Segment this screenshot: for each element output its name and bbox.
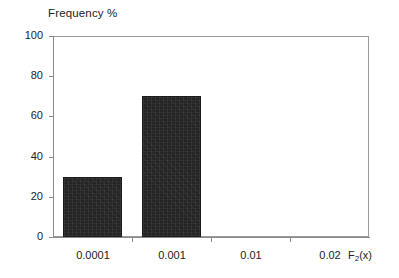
y-tick-mark [49, 237, 54, 238]
y-axis-line [53, 36, 54, 238]
x-axis-title: F2(x) [348, 250, 372, 262]
x-tick-mark [132, 237, 133, 242]
y-tick-label: 100 [3, 30, 43, 41]
y-tick-mark [49, 116, 54, 117]
y-tick-label: 20 [3, 191, 43, 202]
y-tick-label: 0 [3, 231, 43, 242]
bar [142, 96, 201, 237]
x-axis-title-tail: (x) [359, 249, 372, 261]
x-tick-label: 0.01 [211, 250, 291, 261]
y-tick-mark [49, 76, 54, 77]
bar [63, 177, 122, 237]
y-tick-label: 80 [3, 70, 43, 81]
x-tick-label: 0.001 [132, 250, 212, 261]
histogram-figure: Frequency % 020406080100 0.00010.0010.01… [0, 0, 399, 278]
y-tick-mark [49, 157, 54, 158]
chart-title: Frequency % [48, 7, 117, 19]
y-tick-mark [49, 36, 54, 37]
x-axis-title-base: F [348, 249, 355, 261]
x-axis-title-subscript: 2 [355, 254, 359, 263]
x-tick-mark [290, 237, 291, 242]
y-tick-label: 40 [3, 151, 43, 162]
y-tick-mark [49, 197, 54, 198]
y-tick-label: 60 [3, 110, 43, 121]
x-tick-mark [211, 237, 212, 242]
x-tick-label: 0.0001 [53, 250, 133, 261]
